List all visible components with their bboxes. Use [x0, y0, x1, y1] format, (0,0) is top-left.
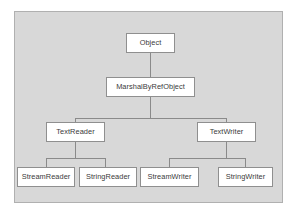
edge-object-to-marshalbyrefobject: [150, 53, 151, 78]
node-stringwriter[interactable]: StringWriter: [218, 167, 273, 187]
node-stringwriter-label: StringWriter: [226, 173, 265, 180]
node-textreader[interactable]: TextReader: [46, 122, 105, 142]
edge-bus-textreader-children: [46, 158, 105, 159]
node-stringreader-label: StringReader: [86, 173, 130, 180]
edge-bus-textwriter-children: [169, 158, 246, 159]
node-stringreader[interactable]: StringReader: [79, 167, 137, 187]
edge-bus-level2: [75, 118, 227, 119]
node-streamreader-label: StreamReader: [22, 173, 71, 180]
edge-textreader-stem: [75, 142, 76, 158]
diagram-canvas: Object MarshalByRefObject TextReader Tex…: [0, 0, 303, 217]
node-marshalbyrefobject-label: MarshalByRefObject: [116, 83, 185, 90]
edge-bus-to-streamwriter: [169, 158, 170, 167]
edge-bus-to-streamreader: [46, 158, 47, 167]
node-marshalbyrefobject[interactable]: MarshalByRefObject: [106, 77, 195, 97]
diagram-panel: Object MarshalByRefObject TextReader Tex…: [14, 11, 283, 203]
node-streamwriter-label: StreamWriter: [148, 173, 192, 180]
node-object[interactable]: Object: [126, 33, 175, 53]
edge-marshalbyrefobject-stem: [150, 97, 151, 118]
node-streamreader[interactable]: StreamReader: [17, 167, 75, 187]
node-object-label: Object: [140, 39, 162, 46]
edge-bus-to-stringwriter: [245, 158, 246, 167]
node-textreader-label: TextReader: [56, 128, 94, 135]
node-streamwriter[interactable]: StreamWriter: [140, 167, 199, 187]
node-textwriter-label: TextWriter: [210, 128, 244, 135]
edge-textwriter-stem: [226, 142, 227, 158]
node-textwriter[interactable]: TextWriter: [197, 122, 256, 142]
edge-bus-to-stringreader: [105, 158, 106, 167]
